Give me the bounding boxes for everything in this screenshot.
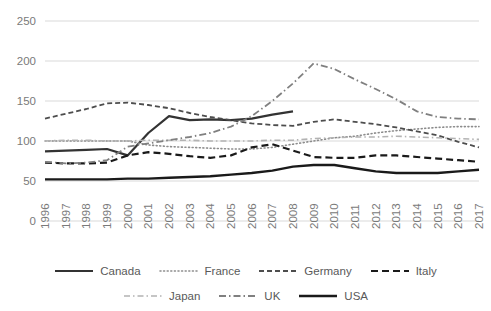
legend-swatch-italy (370, 266, 410, 276)
x-tick-label: 1999 (101, 203, 113, 229)
chart-legend: CanadaFranceGermanyItalyJapanUKUSA (0, 258, 491, 311)
x-tick-label: 2001 (142, 203, 154, 229)
plot-area: 050100150200250 199619971998199920002001… (0, 0, 491, 260)
y-tick-label: 150 (17, 95, 36, 107)
legend-swatch-france (159, 266, 199, 276)
legend-row: CanadaFranceGermanyItaly (0, 258, 491, 283)
legend-item-canada[interactable]: Canada (54, 265, 140, 277)
x-tick-label: 2004 (204, 203, 216, 229)
x-tick-label: 2014 (411, 203, 423, 229)
x-tick-label: 2016 (452, 203, 464, 229)
chart-canvas: 050100150200250 199619971998199920002001… (0, 0, 491, 260)
legend-label: France (205, 265, 241, 277)
y-tick-label: 100 (17, 135, 36, 147)
legend-label: Canada (100, 265, 140, 277)
legend-item-italy[interactable]: Italy (370, 265, 437, 277)
legend-swatch-japan (123, 291, 163, 301)
x-tick-label: 2008 (287, 203, 299, 229)
gridlines (45, 21, 479, 221)
series-line-italy (45, 144, 479, 163)
x-tick-label: 2003 (184, 203, 196, 229)
x-tick-label: 2010 (328, 203, 340, 229)
x-tick-label: 2009 (308, 203, 320, 229)
legend-swatch-usa (298, 291, 338, 301)
x-tick-label: 2011 (349, 204, 361, 229)
legend-swatch-germany (258, 266, 298, 276)
y-tick-label: 50 (23, 175, 36, 187)
legend-item-germany[interactable]: Germany (258, 265, 351, 277)
legend-row: JapanUKUSA (0, 283, 491, 308)
data-series-group (45, 63, 479, 179)
x-tick-label: 1998 (80, 203, 92, 229)
series-line-usa (45, 165, 479, 179)
x-tick-label: 2015 (432, 203, 444, 229)
x-tick-label: 1997 (60, 203, 72, 229)
y-tick-label: 250 (17, 15, 36, 27)
y-axis-tick-labels: 050100150200250 (17, 15, 36, 227)
legend-item-japan[interactable]: Japan (123, 290, 200, 302)
x-tick-label: 2002 (163, 203, 175, 229)
x-tick-label: 2005 (225, 203, 237, 229)
line-chart: 050100150200250 199619971998199920002001… (0, 0, 491, 311)
x-axis-tick-labels: 1996199719981999200020012002200320042005… (39, 203, 485, 229)
x-tick-label: 2007 (266, 203, 278, 229)
x-tick-label: 2006 (246, 203, 258, 229)
legend-item-france[interactable]: France (159, 265, 241, 277)
legend-label: UK (264, 290, 280, 302)
legend-label: Germany (304, 265, 351, 277)
legend-label: Japan (169, 290, 200, 302)
x-tick-label: 2012 (370, 203, 382, 229)
legend-swatch-canada (54, 266, 94, 276)
x-tick-label: 2013 (390, 203, 402, 229)
x-tick-label: 2017 (473, 203, 485, 229)
legend-label: Italy (416, 265, 437, 277)
series-line-canada (45, 111, 293, 155)
y-tick-label: 200 (17, 55, 36, 67)
legend-item-uk[interactable]: UK (218, 290, 280, 302)
legend-swatch-uk (218, 291, 258, 301)
x-tick-label: 1996 (39, 203, 51, 229)
y-tick-label: 0 (30, 215, 36, 227)
legend-item-usa[interactable]: USA (298, 290, 368, 302)
legend-label: USA (344, 290, 368, 302)
x-tick-label: 2000 (122, 203, 134, 229)
